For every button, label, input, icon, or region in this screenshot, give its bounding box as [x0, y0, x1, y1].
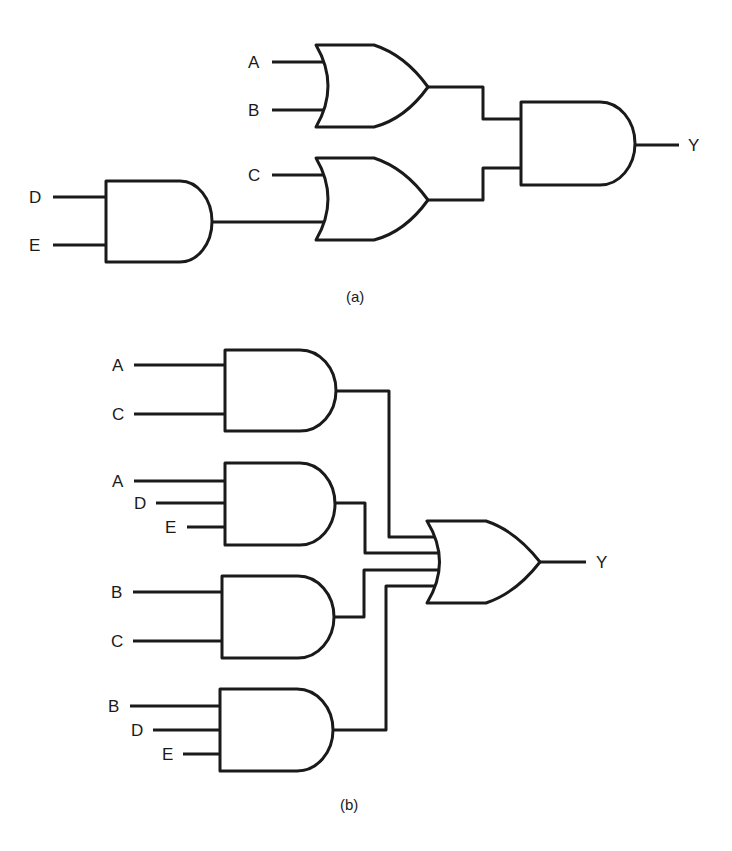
label-b-output-y: Y: [596, 553, 607, 572]
wire-or2-to-and-out: [428, 168, 521, 200]
wire-and3-to-or: [334, 570, 443, 617]
logic-circuit-figure: A B C D E Y (a): [0, 0, 732, 851]
and-gate-3: [222, 576, 334, 658]
label-b-and4-e: E: [162, 745, 173, 764]
caption-a: (a): [346, 288, 364, 305]
wire-and1-to-or: [336, 391, 438, 537]
and-gate-de: [106, 181, 212, 262]
or-gate-1: [316, 45, 428, 127]
label-input-d: D: [29, 188, 41, 207]
label-input-c: C: [248, 166, 260, 185]
panel-b: A C A D E B C B D E Y (b): [108, 350, 607, 813]
wire-or1-to-and-out: [428, 87, 521, 119]
label-b-and3-c: C: [111, 632, 123, 651]
label-b-and4-d: D: [131, 721, 143, 740]
caption-b: (b): [340, 796, 358, 813]
label-input-e: E: [29, 236, 40, 255]
label-b-and1-c: C: [112, 405, 124, 424]
label-input-a: A: [248, 53, 260, 72]
and-gate-output: [521, 102, 635, 185]
and-gate-4: [220, 689, 333, 771]
label-b-and3-b: B: [111, 583, 122, 602]
and-gate-1: [225, 350, 336, 431]
or-gate-output: [427, 521, 540, 603]
label-output-y: Y: [688, 136, 699, 155]
panel-a: A B C D E Y (a): [29, 45, 699, 305]
label-input-b: B: [248, 101, 259, 120]
label-b-and2-a: A: [112, 472, 124, 491]
or-gate-2: [316, 158, 428, 240]
and-gate-2: [225, 463, 335, 545]
label-b-and2-d: D: [134, 494, 146, 513]
label-b-and1-a: A: [112, 356, 124, 375]
wire-and4-to-or: [333, 586, 438, 730]
label-b-and4-b: B: [108, 697, 119, 716]
label-b-and2-e: E: [165, 518, 176, 537]
